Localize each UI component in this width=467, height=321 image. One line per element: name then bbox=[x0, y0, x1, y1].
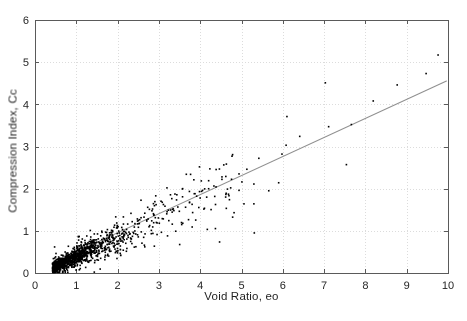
y-axis-label: Compression Index, Cc bbox=[7, 79, 19, 224]
scatter-plot-canvas bbox=[0, 0, 467, 321]
scatter-figure: Void Ratio, eo Compression Index, Cc bbox=[0, 0, 467, 321]
x-axis-label: Void Ratio, eo bbox=[35, 290, 448, 302]
